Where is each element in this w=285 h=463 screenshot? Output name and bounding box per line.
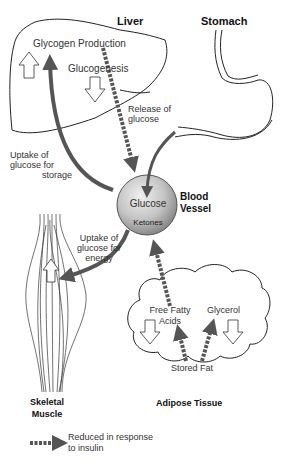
adipose-tissue-label: Adipose Tissue xyxy=(156,398,222,409)
uptake-storage-label: Uptake of glucose for storage xyxy=(10,150,72,180)
glucogenesis-label: Glucogenesis xyxy=(68,63,129,74)
skeletal-muscle-label: Skeletal Muscle xyxy=(18,396,76,420)
glycogen-increase-arrow-icon xyxy=(19,52,39,78)
diagram-canvas xyxy=(0,0,285,463)
stomach-label: Stomach xyxy=(201,16,247,27)
release-of-glucose-label: Release of glucose xyxy=(128,104,171,124)
stomach-outline xyxy=(178,30,273,137)
glucogenesis-decrease-arrow-icon xyxy=(85,77,105,102)
glycerol-label: Glycerol xyxy=(207,305,240,316)
free-fatty-acids-label: Free Fatty Acids xyxy=(145,305,195,327)
ketones-label: Ketones xyxy=(128,217,168,228)
uptake-energy-label: Uptake of glucose for energy xyxy=(73,233,125,263)
glucose-label: Glucose xyxy=(128,198,168,209)
muscle-increase-arrow-icon xyxy=(43,259,59,282)
liver-label: Liver xyxy=(117,16,143,27)
blood-vessel-label: Blood Vessel xyxy=(180,191,211,215)
stored-fat-label: Stored Fat xyxy=(171,363,213,374)
legend-label: Reduced in response to insulin xyxy=(68,432,153,454)
glycogen-production-label: Glycogen Production xyxy=(33,38,126,49)
